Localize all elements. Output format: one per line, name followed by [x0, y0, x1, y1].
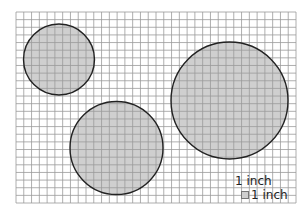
legend-unit-square	[241, 191, 249, 199]
legend-width-label: 1 inch	[235, 175, 272, 187]
legend-height-label: 1 inch	[251, 189, 288, 201]
grid-figure: 1 inch 1 inch	[0, 0, 307, 218]
